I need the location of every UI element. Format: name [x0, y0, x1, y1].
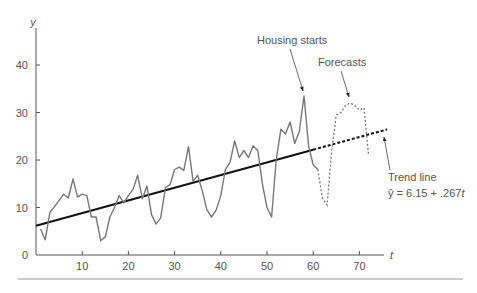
x-ticks: 10203040506070: [76, 251, 365, 272]
y-axis-label: y: [29, 16, 37, 28]
y-tick-label: 0: [22, 249, 28, 261]
annotations: Housing starts Forecasts Trend line ŷ = …: [257, 34, 465, 199]
forecasts-annotation: Forecasts: [318, 56, 367, 68]
forecasts-arrow-icon: [341, 71, 349, 97]
y-tick-label: 10: [16, 202, 28, 214]
series-layer: [36, 96, 387, 241]
x-tick-label: 30: [168, 260, 180, 272]
housing-starts-chart: 010203040 10203040506070 y t Housing sta…: [0, 0, 477, 293]
trend-equation: ŷ = 6.15 + .267t: [388, 187, 465, 199]
housing-starts-annotation: Housing starts: [257, 34, 328, 46]
y-tick-label: 30: [16, 107, 28, 119]
y-tick-label: 40: [16, 59, 28, 71]
trend-line-extrapolated: [313, 129, 387, 149]
x-tick-label: 70: [353, 260, 365, 272]
x-tick-label: 60: [307, 260, 319, 272]
x-tick-label: 40: [215, 260, 227, 272]
housing-starts-arrow-icon: [290, 49, 303, 91]
x-tick-label: 20: [122, 260, 134, 272]
y-tick-label: 20: [16, 154, 28, 166]
axes: 010203040 10203040506070 y t: [16, 16, 394, 272]
forecasts-line: [318, 103, 369, 205]
trend-line-arrow-icon: [384, 137, 390, 170]
housing-starts-line: [41, 96, 318, 241]
x-axis-label: t: [390, 249, 394, 261]
x-tick-label: 50: [261, 260, 273, 272]
trend-line-annotation: Trend line: [388, 171, 437, 183]
x-tick-label: 10: [76, 260, 88, 272]
